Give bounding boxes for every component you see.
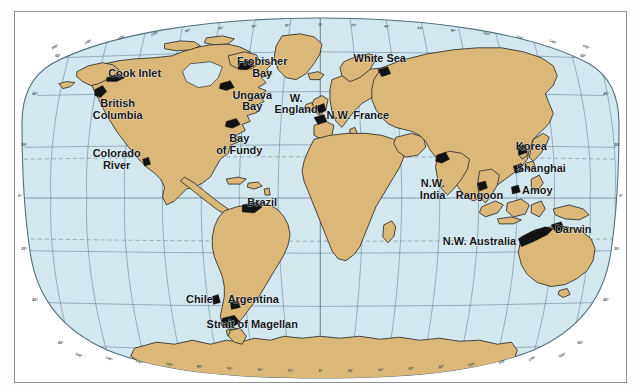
place-label-line: Strait of Magellan: [207, 318, 298, 330]
place-label-line: Bay: [229, 132, 250, 144]
top-longitude-tick: 20°: [284, 23, 290, 27]
place-label-line: British: [100, 97, 135, 109]
bottom-longitude-tick: 140°: [528, 355, 537, 362]
place-label-shanghai: Shanghai: [517, 162, 566, 174]
bottom-longitude-tick: 40°: [378, 368, 384, 373]
bottom-longitude-tick: 40°: [257, 368, 263, 373]
island-lesser-antilles: [264, 188, 270, 195]
place-label-strait-of-magellan: Strait of Magellan: [207, 318, 298, 330]
top-longitude-tick: 20°: [351, 23, 357, 27]
place-label-nw-australia: N.W. Australia: [443, 235, 517, 247]
world-map-canvas: 160°140°120°100°80°60°40°20°0°20°40°60°8…: [15, 12, 626, 382]
place-label-line: India: [420, 189, 446, 201]
place-label-line: Argentina: [228, 293, 280, 305]
place-label-line: White Sea: [354, 52, 407, 64]
place-label-white-sea: White Sea: [354, 52, 407, 64]
right-latitude-tick: 40°: [603, 298, 609, 302]
screenshot-root: 160°140°120°100°80°60°40°20°0°20°40°60°8…: [0, 0, 641, 390]
place-label-line: Rangoon: [456, 189, 503, 201]
right-latitude-tick: 0°: [619, 194, 623, 198]
right-latitude-tick: 60°: [577, 341, 583, 345]
place-label-line: Darwin: [555, 223, 592, 235]
left-latitude-tick: 20°: [21, 143, 27, 147]
place-label-darwin: Darwin: [555, 223, 592, 235]
right-latitude-tick: 20°: [614, 143, 620, 147]
right-latitude-tick: 40°: [603, 92, 609, 96]
top-longitude-tick: 40°: [251, 24, 257, 29]
place-label-chile: Chile: [186, 293, 213, 305]
left-latitude-tick: 60°: [55, 54, 61, 58]
left-latitude-tick: 20°: [21, 247, 27, 251]
place-label-line: River: [103, 159, 131, 171]
top-longitude-tick: 0°: [319, 23, 323, 27]
left-latitude-tick: 40°: [32, 92, 38, 96]
place-label-cook-inlet: Cook Inlet: [108, 67, 161, 79]
left-latitude-tick: 40°: [32, 298, 38, 302]
place-label-rangoon: Rangoon: [456, 189, 503, 201]
place-label-line: Korea: [516, 140, 548, 152]
right-latitude-tick: 20°: [614, 247, 620, 251]
place-label-nw-france: N.W. France: [327, 109, 390, 121]
left-latitude-tick: 60°: [58, 341, 64, 345]
place-label-line: N.W.: [421, 177, 445, 189]
world-map-frame: 160°140°120°100°80°60°40°20°0°20°40°60°8…: [14, 11, 627, 383]
place-label-line: Ungava: [232, 89, 272, 101]
place-label-line: of Fundy: [216, 144, 263, 156]
top-longitude-tick: 140°: [549, 39, 558, 46]
place-label-line: England: [274, 103, 317, 115]
place-label-line: Colorado: [93, 147, 141, 159]
top-longitude-tick: 160°: [582, 43, 591, 50]
place-label-amoy: Amoy: [522, 184, 553, 196]
right-latitude-tick: 60°: [580, 54, 586, 58]
top-longitude-tick: 40°: [384, 24, 390, 29]
place-label-line: Bay: [242, 100, 263, 112]
place-label-line: Brazil: [247, 196, 277, 208]
bottom-longitude-tick: 160°: [75, 352, 84, 359]
place-label-line: Chile: [186, 293, 213, 305]
place-label-korea: Korea: [516, 140, 548, 152]
continent-antarctica: [131, 336, 518, 381]
top-longitude-tick: 160°: [51, 43, 60, 50]
bottom-longitude-tick: 140°: [105, 356, 114, 363]
place-label-argentina: Argentina: [228, 293, 280, 305]
place-label-nw-india: N.W.India: [420, 177, 446, 201]
place-label-line: Frobisher: [237, 55, 288, 67]
place-label-line: Shanghai: [517, 162, 566, 174]
place-label-line: N.W. France: [327, 109, 390, 121]
place-label-line: Columbia: [93, 109, 144, 121]
place-label-line: N.W. Australia: [443, 235, 517, 247]
place-label-line: Cook Inlet: [108, 67, 161, 79]
place-label-line: Amoy: [522, 184, 553, 196]
top-longitude-tick: 140°: [84, 38, 93, 45]
bottom-longitude-tick: 20°: [287, 369, 293, 373]
left-latitude-tick: 0°: [18, 194, 22, 198]
bottom-longitude-tick: 20°: [348, 369, 354, 373]
bottom-longitude-tick: 0°: [319, 369, 323, 373]
place-label-line: Bay: [252, 67, 273, 79]
place-label-line: W.: [290, 92, 303, 104]
bottom-longitude-tick: 160°: [558, 352, 567, 359]
island-new-zealand: [601, 283, 616, 309]
place-label-brazil: Brazil: [247, 196, 277, 208]
